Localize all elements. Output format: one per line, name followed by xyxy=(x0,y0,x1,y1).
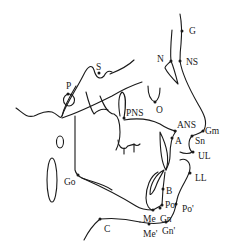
landmark-label-po: Po xyxy=(165,200,175,210)
ramus-posterior xyxy=(75,116,112,190)
landmark-label-gn: Gn xyxy=(160,214,172,224)
ear-oval-large xyxy=(47,158,57,202)
landmark-point-ns xyxy=(179,60,182,63)
landmark-label-o: O xyxy=(156,105,163,115)
landmark-label-gm: Gm xyxy=(205,126,220,136)
landmark-label-g: G xyxy=(189,26,196,36)
landmark-label-ll: LL xyxy=(195,173,207,183)
landmark-label-a: A xyxy=(175,136,182,146)
nasal-bone xyxy=(165,30,178,84)
landmark-point-a xyxy=(171,137,174,140)
landmark-label-ans: ANS xyxy=(177,120,196,130)
landmark-label-sn: Sn xyxy=(195,136,205,146)
palatal-plane xyxy=(124,119,176,131)
landmark-point-b xyxy=(162,188,165,191)
landmark-point-po xyxy=(161,204,164,207)
landmark-point-sn xyxy=(191,135,194,138)
landmark-label-me-prime: Me' xyxy=(143,229,158,239)
landmark-point-p xyxy=(67,93,70,96)
landmark-point-me xyxy=(152,209,155,212)
upper-incisor xyxy=(160,132,168,170)
landmark-label-go: Go xyxy=(64,177,76,187)
landmark-point-n xyxy=(170,60,173,63)
landmark-label-ul: UL xyxy=(198,151,211,161)
landmark-point-ul xyxy=(192,151,195,154)
ptm-fissure xyxy=(119,92,126,118)
landmark-label-pns: PNS xyxy=(126,108,143,118)
landmark-point-g xyxy=(181,30,184,33)
orbit xyxy=(148,86,160,102)
landmark-point-o xyxy=(154,101,157,104)
landmark-label-gn-prime: Gn' xyxy=(162,226,176,236)
molar-teeth xyxy=(118,140,140,154)
landmark-label-b: B xyxy=(166,186,172,196)
landmark-label-c: C xyxy=(104,224,110,234)
landmark-point-c xyxy=(99,218,102,221)
landmark-label-n: N xyxy=(157,54,164,64)
landmark-labels: GNNSSPOPNSANSGmASnULLLGoBPoPo'MeGnMe'Gn'… xyxy=(64,26,220,239)
lower-incisor xyxy=(150,170,164,195)
ear-oval-small xyxy=(57,136,64,148)
landmark-label-p: P xyxy=(66,81,71,91)
landmark-label-ns: NS xyxy=(186,57,198,67)
frontal-arc xyxy=(110,60,134,74)
cephalometric-diagram: GNNSSPOPNSANSGmASnULLLGoBPoPo'MeGnMe'Gn'… xyxy=(0,0,227,249)
landmark-label-s: S xyxy=(96,62,101,72)
landmark-point-go xyxy=(77,174,80,177)
landmark-point-gn xyxy=(159,207,162,210)
mandibular-border xyxy=(82,178,153,210)
landmark-label-po-prime: Po' xyxy=(182,204,194,214)
landmark-label-me: Me xyxy=(143,214,156,224)
maxilla-posterior-curve xyxy=(100,96,120,150)
landmark-point-ll xyxy=(189,172,192,175)
throat-line xyxy=(84,218,140,240)
